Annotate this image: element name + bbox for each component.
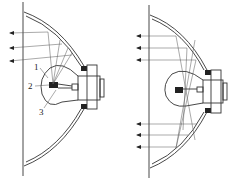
- reflector-bottom: [150, 112, 207, 168]
- reflector-top-inner: [152, 19, 204, 70]
- reflector-bottom: [24, 109, 84, 166]
- ray-out: [10, 32, 48, 33]
- reflector-bottom-inner: [26, 109, 81, 162]
- ray: [48, 32, 53, 84]
- socket-cap: [100, 79, 104, 97]
- ray: [53, 40, 60, 84]
- seal-top: [81, 66, 87, 71]
- arrow-icon: [136, 58, 141, 62]
- arrow-icon: [9, 46, 14, 50]
- ray-out: [10, 44, 62, 48]
- lead-holder: [72, 84, 78, 90]
- socket-outer: [211, 70, 221, 113]
- socket-body: [203, 80, 223, 103]
- leader-1: [40, 68, 48, 78]
- seal-top: [205, 70, 211, 75]
- arrow-icon: [136, 145, 141, 149]
- lead-holder: [197, 87, 203, 92]
- seal-bottom: [81, 104, 87, 109]
- arrow-icon: [136, 46, 141, 50]
- headlamp-diagram: 1 2 3: [0, 0, 235, 181]
- socket-cap: [223, 83, 227, 100]
- leader-2: [35, 85, 49, 86]
- arrow-icon: [136, 34, 141, 38]
- leader-3: [44, 90, 56, 108]
- label-3: 3: [39, 107, 44, 117]
- filament: [175, 87, 183, 93]
- arrow-icon: [9, 31, 14, 35]
- label-1: 1: [34, 62, 39, 72]
- reflector-top: [150, 15, 207, 70]
- ray: [176, 40, 195, 148]
- arrow-icon: [136, 133, 141, 137]
- filament-lead: [58, 84, 72, 86]
- seal-bottom: [205, 108, 211, 113]
- reflector-top: [24, 12, 84, 66]
- right-headlamp: [136, 5, 227, 178]
- left-headlamp: 1 2 3: [9, 2, 104, 176]
- socket-outer: [87, 65, 97, 109]
- arrow-icon: [136, 122, 141, 126]
- label-2: 2: [28, 81, 33, 91]
- arrow-icon: [9, 59, 14, 63]
